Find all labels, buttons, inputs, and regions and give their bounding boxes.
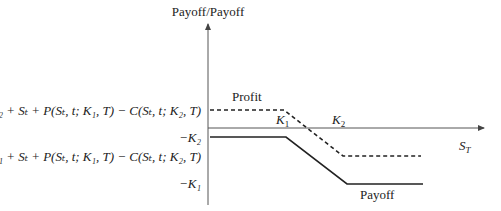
y-axis-label: Payoff/Payoff: [172, 4, 245, 19]
x-axis-label: ST: [459, 138, 472, 155]
profit-label: Profit: [232, 89, 262, 104]
level-label-profit-high: −K₂ + Sₜ + P(Sₜ, t; K₁, T) − C(Sₜ, t; K₂…: [0, 103, 201, 118]
payoff-diagram: Payoff/Payoff ST K1 K2 −K₂ + Sₜ + P(Sₜ, …: [0, 0, 501, 211]
level-label-payoff-high: −K₂: [179, 130, 201, 145]
level-label-payoff-low: −K₁: [179, 176, 201, 191]
payoff-label: Payoff: [360, 187, 395, 202]
profit-curve: [210, 110, 421, 156]
level-label-profit-low: −K₁ + Sₜ + P(Sₜ, t; K₁, T) − C(Sₜ, t; K₂…: [0, 149, 201, 164]
strike-label-k1: K1: [275, 112, 289, 129]
payoff-curve: [210, 137, 423, 184]
strike-label-k2: K2: [331, 112, 345, 129]
